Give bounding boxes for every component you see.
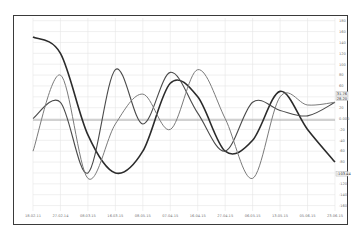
x-tick-label: 27.04.15 (217, 214, 233, 218)
svg-text:28.20: 28.20 (337, 97, 348, 101)
x-tick-label: 08.03.15 (80, 214, 96, 218)
x-tick-label: 16.04.15 (190, 214, 206, 218)
y-tick-label: 60 (339, 84, 344, 88)
y-tick-label: -20 (339, 128, 346, 132)
x-tick-label: 08.05.15 (135, 214, 151, 218)
y-tick-label: 20 (339, 106, 344, 110)
grid (33, 18, 335, 211)
value-badge: -103.44 (336, 172, 351, 177)
series-line-1 (33, 37, 335, 173)
x-tick-label: 18.02.11 (25, 214, 41, 218)
x-tick-label: 05.06.15 (300, 214, 316, 218)
y-tick-label: 180 (339, 19, 347, 23)
x-tick-label: 13.05.15 (272, 214, 288, 218)
x-tick-label: 27.02.14 (52, 214, 69, 218)
y-tick-label: -140 (339, 193, 348, 197)
y-tick-label: 80 (339, 73, 344, 77)
line-chart: 180160140120100806040200.000-20-40-60-80… (0, 0, 359, 240)
x-tick-label: 16.03.15 (107, 214, 123, 218)
y-tick-label: -40 (339, 139, 346, 143)
x-tick-label: 23.06.15 (327, 214, 343, 218)
y-tick-label: 120 (339, 52, 347, 56)
y-tick-label: -60 (339, 149, 346, 153)
y-tick-label: -160 (339, 204, 348, 208)
value-badge: 28.20 (336, 96, 348, 101)
value-badge: 31.76 (336, 92, 348, 97)
y-tick-label: 100 (339, 63, 347, 67)
y-axis-labels: 180160140120100806040200.000-20-40-60-80… (339, 19, 350, 208)
y-tick-label: 0.000 (339, 117, 350, 121)
y-tick-label: -120 (339, 182, 348, 186)
y-tick-label: -80 (339, 160, 346, 164)
series-line-2 (33, 69, 335, 173)
svg-text:-103.44: -103.44 (337, 172, 352, 176)
x-tick-label: 07.04.15 (162, 214, 178, 218)
x-axis-labels: 18.02.1127.02.1408.03.1516.03.1508.05.15… (25, 214, 343, 218)
y-tick-label: 160 (339, 30, 347, 34)
y-tick-label: 140 (339, 41, 347, 45)
series-lines (33, 37, 335, 179)
x-tick-label: 06.05.15 (245, 214, 261, 218)
